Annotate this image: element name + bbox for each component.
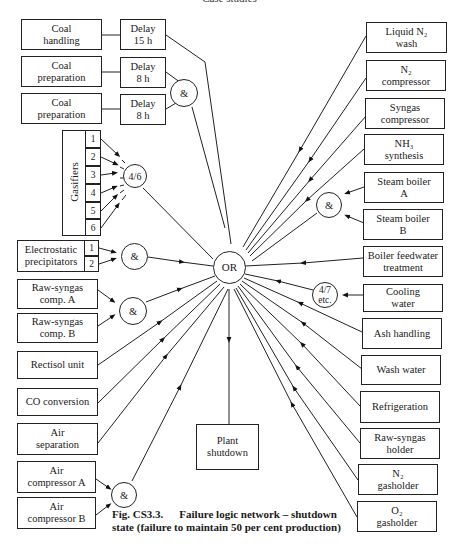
air-separation-label: Air separation [36,427,79,451]
delay-8h-1-box: Delay 8 h [120,57,166,88]
refrigeration-box: Refrigeration [360,391,440,423]
precipitators-label: Electrostatic precipitators [25,244,77,268]
raw-syngas-and-gate: & [119,297,147,325]
precipitators-and-gate: & [121,243,148,270]
syngas-compressor-label: Syngas compressor [381,102,429,126]
delay-15h-box: Delay 15 h [120,19,166,50]
syngas-compressor-box: Syngas compressor [365,98,445,129]
or-gate: OR [213,251,246,284]
air-compressor-a-box: Air compressor A [17,461,96,493]
nh3-synthesis-box: NH₃ synthesis [364,134,444,165]
raw-syngas-comp-b-box: Raw-syngas comp. B [17,313,98,343]
steam-boiler-and-gate: & [316,192,342,218]
rectisol-unit-box: Rectisol unit [17,351,98,379]
precipitator-1: 1 [84,240,99,256]
n2-compressor-label: N₂ compressor [382,64,430,88]
refrigeration-label: Refrigeration [372,401,428,413]
caption-line-2: state (failure to maintain 50 per cent p… [112,521,341,534]
gasifier-3: 3 [85,166,101,184]
ash-handling-label: Ash handling [374,328,430,340]
cooling-water-4of7-gate: 4/7 etc. [312,282,338,308]
wash-water-label: Wash water [376,364,425,376]
boiler-feedwater-box: Boiler feedwater treatment [363,246,443,277]
delay-8h-2-box: Delay 8 h [120,94,166,125]
o2-gasholder-box: O₂ gasholder [357,501,437,532]
gasifiers-label: Gasifiers [68,154,80,210]
raw-syngas-holder-box: Raw-syngas holder [360,428,440,459]
coal-handling-label: Coal handling [43,23,80,47]
air-compressor-b-label: Air compressor B [27,501,85,525]
plant-shutdown-label: Plant shutdown [207,435,248,459]
delay-15h-label: Delay 15 h [130,23,155,47]
coal-handling-box: Coal handling [21,19,102,50]
co-conversion-box: CO conversion [17,388,98,416]
n2-compressor-box: N₂ compressor [366,60,446,91]
liquid-n2-wash-box: Liquid N₂ wash [366,22,447,53]
raw-syngas-comp-a-label: Raw-syngas comp. A [32,282,83,306]
gasifier-6: 6 [85,219,101,236]
air-compressor-and-gate: & [111,482,137,508]
gasifier-4: 4 [85,184,101,202]
caption-line-1: Failure logic network – shutdown [179,508,336,520]
ash-handling-box: Ash handling [362,318,442,349]
air-separation-box: Air separation [17,423,98,455]
delay-8h-2-label: Delay 8 h [130,98,155,122]
precipitator-2: 2 [84,256,99,272]
liquid-n2-wash-label: Liquid N₂ wash [386,26,428,50]
gasifier-1: 1 [85,130,101,148]
steam-boiler-b-box: Steam boiler B [363,209,443,240]
steam-boiler-a-label: Steam boiler A [377,176,430,200]
air-compressor-b-box: Air compressor B [17,497,96,529]
steam-boiler-a-box: Steam boiler A [364,172,444,203]
precipitators-box: Electrostatic precipitators [17,240,85,272]
raw-syngas-comp-b-label: Raw-syngas comp. B [32,316,83,340]
gasifier-2: 2 [85,148,101,166]
coal-prep-and-gate: & [170,79,198,107]
rectisol-unit-label: Rectisol unit [31,359,84,371]
cooling-water-gate-label: 4/7 etc. [318,285,331,305]
nh3-synthesis-label: NH₃ synthesis [385,138,424,162]
co-conversion-label: CO conversion [26,396,89,408]
plant-shutdown-box: Plant shutdown [196,424,259,470]
boiler-feedwater-label: Boiler feedwater treatment [368,250,438,274]
cooling-water-box: Cooling water [363,284,443,312]
delay-8h-1-label: Delay 8 h [130,61,155,85]
cooling-water-label: Cooling water [386,286,420,310]
n2-gasholder-box: N₂ gasholder [358,464,438,495]
gasifiers-4of6-gate: 4/6 [123,164,147,188]
steam-boiler-b-label: Steam boiler B [376,213,429,237]
figure-caption: Fig. CS3.3.Failure logic network – shutd… [112,508,341,534]
coal-preparation-2-box: Coal preparation [21,93,102,124]
coal-preparation-1-box: Coal preparation [21,56,102,87]
gasifier-5: 5 [85,202,101,219]
coal-preparation-1-label: Coal preparation [38,60,86,84]
figure-number: Fig. CS3.3. [112,508,163,520]
raw-syngas-comp-a-box: Raw-syngas comp. A [17,279,98,309]
wash-water-box: Wash water [361,355,441,385]
n2-gasholder-label: N₂ gasholder [378,468,419,492]
coal-preparation-2-label: Coal preparation [38,97,86,121]
o2-gasholder-label: O₂ gasholder [377,505,418,529]
air-compressor-a-label: Air compressor A [27,465,85,489]
raw-syngas-holder-label: Raw-syngas holder [374,432,425,456]
